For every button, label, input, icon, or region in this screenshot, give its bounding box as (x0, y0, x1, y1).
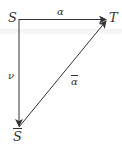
node-T: T (109, 11, 118, 24)
arrow-alpha-bar (19, 21, 106, 127)
node-S-bar: S (13, 128, 22, 143)
label-alpha-bar: α (71, 75, 78, 87)
label-nu: ν (8, 71, 14, 81)
label-alpha: α (57, 7, 64, 17)
node-S: S (8, 11, 17, 24)
commutative-triangle-diagram: S T S α ν α (0, 0, 122, 147)
arrows-layer (0, 0, 122, 147)
